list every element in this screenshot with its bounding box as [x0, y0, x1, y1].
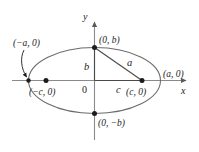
ellipse-figure: (−a, 0) (a, 0) (−c, 0) (c, 0) (0, b) (0,…	[0, 0, 199, 152]
label-x-axis: x	[181, 86, 185, 96]
vertex-left-dot	[26, 78, 30, 82]
covertex-bottom-dot	[92, 111, 97, 116]
segment-a-line	[95, 48, 143, 81]
label-focus-right: (c, 0)	[126, 88, 146, 98]
vertex-left-callout-arrow	[22, 50, 27, 77]
label-covertex-top: (0, b)	[99, 36, 120, 46]
label-covertex-bottom: (0, −b)	[98, 119, 125, 129]
label-segment-a: a	[127, 58, 132, 69]
label-focus-left: (−c, 0)	[29, 88, 55, 98]
covertex-top-dot	[92, 45, 97, 50]
label-vertex-left: (−a, 0)	[13, 39, 40, 49]
label-vertex-right: (a, 0)	[163, 70, 184, 80]
focus-right-dot	[140, 78, 145, 83]
label-origin: 0	[82, 85, 87, 95]
label-y-axis: y	[83, 12, 87, 22]
label-segment-b: b	[84, 62, 89, 73]
focus-left-dot	[44, 78, 49, 83]
label-segment-c: c	[116, 85, 121, 96]
